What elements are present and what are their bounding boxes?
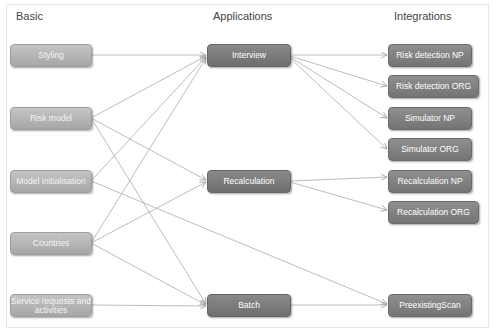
edge-interview-simorg xyxy=(290,58,387,149)
node-service-requests[interactable]: Service requests and activities xyxy=(10,294,92,317)
edge-riskmodel-recalculation xyxy=(91,118,206,180)
node-recalculation[interactable]: Recalculation xyxy=(207,170,291,193)
edge-riskmodel-interview xyxy=(91,56,206,118)
node-simulator-np[interactable]: Simulator NP xyxy=(388,107,472,130)
node-styling[interactable]: Styling xyxy=(10,44,92,67)
edge-countries-interview xyxy=(91,58,206,243)
node-interview[interactable]: Interview xyxy=(207,44,291,67)
edge-interview-rdorg xyxy=(290,56,387,86)
node-recalculation-org[interactable]: Recalculation ORG xyxy=(388,201,479,224)
edge-modelinit-interview xyxy=(91,57,206,181)
edge-modelinit-preexisting xyxy=(91,181,387,304)
edge-riskmodel-batch xyxy=(91,118,206,304)
edge-countries-batch xyxy=(91,243,206,305)
node-preexisting-scan[interactable]: PreexistingScan xyxy=(388,294,472,317)
node-model-initialisation[interactable]: Model initialisation xyxy=(10,170,92,193)
edge-service-batch xyxy=(91,305,206,306)
node-recalculation-np[interactable]: Recalculation NP xyxy=(388,170,472,193)
edge-recalculation-recalcorg xyxy=(290,182,387,210)
node-batch[interactable]: Batch xyxy=(207,294,291,317)
edge-recalculation-recalcnp xyxy=(290,177,387,181)
edge-interview-simnp xyxy=(290,57,387,118)
node-simulator-org[interactable]: Simulator ORG xyxy=(388,138,472,161)
node-risk-detection-np[interactable]: Risk detection NP xyxy=(388,44,472,67)
edge-countries-recalculation xyxy=(91,182,206,243)
node-risk-detection-org[interactable]: Risk detection ORG xyxy=(388,75,479,98)
node-countries[interactable]: Countries xyxy=(10,232,92,255)
node-risk-model[interactable]: Risk model xyxy=(10,107,92,130)
